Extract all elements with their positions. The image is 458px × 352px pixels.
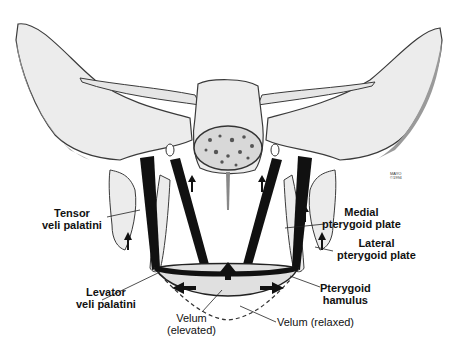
- label-line: veli palatini: [76, 298, 136, 310]
- label-levator-veli-palatini: Levator veli palatini: [76, 286, 136, 310]
- label-velum-elevated: Velum (elevated): [167, 312, 216, 336]
- label-line: Medial: [322, 206, 401, 218]
- left-levator-veli-palatini: [170, 158, 210, 272]
- label-line: Velum: [167, 312, 216, 324]
- left-lateral-pterygoid-plate: [109, 170, 136, 250]
- label-medial-pterygoid-plate: Medial pterygoid plate: [322, 206, 401, 230]
- label-line: hamulus: [320, 294, 371, 306]
- artist-signature: MAYO ©1994: [390, 172, 402, 180]
- label-line: pterygoid plate: [337, 249, 416, 261]
- signature-line-2: ©1994: [390, 176, 402, 180]
- label-line: Lateral: [337, 237, 416, 249]
- label-velum-relaxed: Velum (relaxed): [277, 316, 354, 328]
- label-line: Levator: [76, 286, 136, 298]
- label-line: pterygoid plate: [322, 218, 401, 230]
- label-lateral-pterygoid-plate: Lateral pterygoid plate: [337, 237, 416, 261]
- label-line: veli palatini: [42, 219, 102, 231]
- label-line: Tensor: [42, 207, 102, 219]
- label-line: (elevated): [167, 324, 216, 336]
- label-line: Pterygoid: [320, 282, 371, 294]
- label-tensor-veli-palatini: Tensor veli palatini: [42, 207, 102, 231]
- label-pterygoid-hamulus: Pterygoid hamulus: [320, 282, 371, 306]
- sphenoid-sinus: [194, 126, 262, 170]
